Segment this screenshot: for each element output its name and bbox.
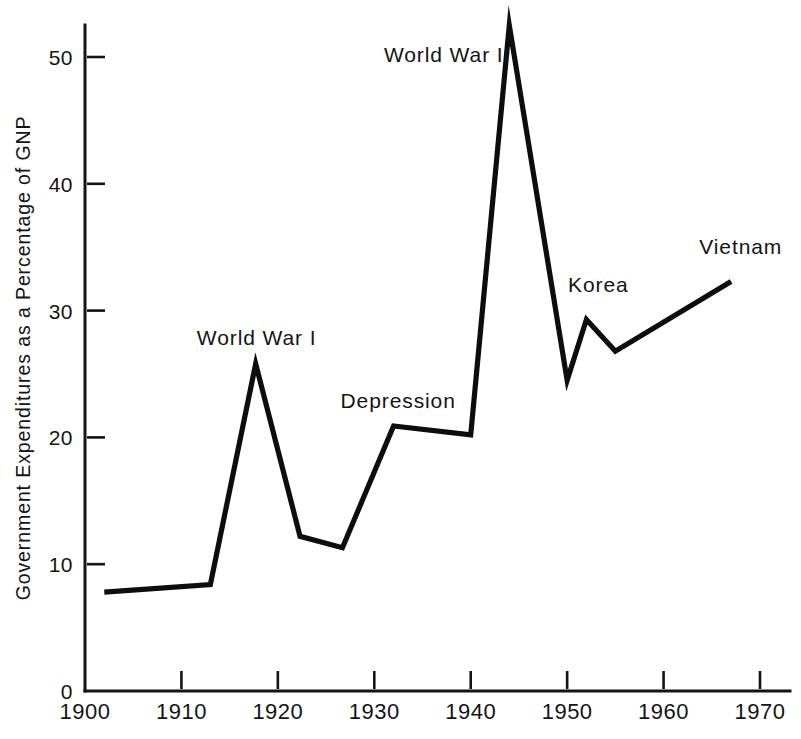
annotation-label: Vietnam bbox=[699, 235, 782, 258]
chart-svg: 01020304050 1900191019201930194019501960… bbox=[0, 0, 801, 739]
x-axis-tick-label: 1970 bbox=[735, 699, 786, 724]
data-series-line bbox=[104, 25, 731, 592]
annotation-label: Korea bbox=[568, 273, 629, 296]
annotation-label: World War II bbox=[384, 43, 510, 66]
annotation-label: Depression bbox=[341, 389, 456, 412]
y-axis-tick-label: 10 bbox=[49, 553, 73, 576]
y-axis-tick-label: 30 bbox=[49, 300, 73, 323]
x-axis-ticks bbox=[181, 671, 760, 689]
y-axis-title: Government Expenditures as a Percentage … bbox=[12, 116, 34, 601]
y-axis-tick-label: 20 bbox=[49, 426, 73, 449]
x-axis-tick-label: 1900 bbox=[60, 699, 111, 724]
x-axis-tick-label: 1910 bbox=[156, 699, 207, 724]
x-axis-tick-label: 1940 bbox=[445, 699, 496, 724]
x-axis-tick-label: 1930 bbox=[349, 699, 400, 724]
annotation-label: World War I bbox=[197, 326, 317, 349]
x-axis-tick-label: 1920 bbox=[252, 699, 303, 724]
x-axis-tick-label: 1960 bbox=[638, 699, 689, 724]
y-axis-tick-label: 50 bbox=[49, 46, 73, 69]
x-axis-tick-label: 1950 bbox=[542, 699, 593, 724]
chart-container: 01020304050 1900191019201930194019501960… bbox=[0, 0, 801, 739]
x-axis-tick-labels: 19001910192019301940195019601970 bbox=[60, 699, 786, 724]
y-axis-ticks bbox=[87, 57, 105, 564]
y-axis-tick-label: 40 bbox=[49, 173, 73, 196]
y-axis-tick-labels: 01020304050 bbox=[49, 46, 73, 703]
